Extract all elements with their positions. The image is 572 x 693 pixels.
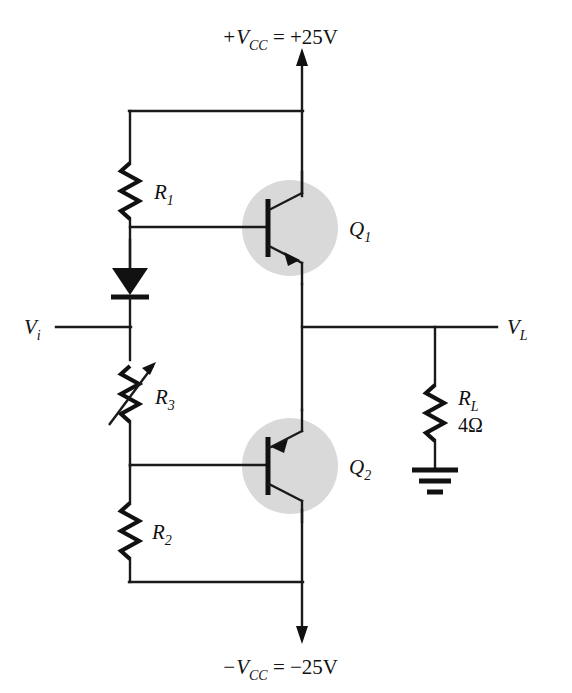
r3-adjust-arrowhead	[142, 362, 156, 375]
vcc-pos-rhs: = +25V	[268, 25, 338, 49]
r3-variable-resistor-symbol	[109, 362, 156, 466]
svg-text:VL: VL	[507, 315, 528, 343]
vcc-neg-sub: CC	[249, 668, 268, 683]
q1-label: Q1	[349, 217, 371, 245]
q2-label: Q2	[349, 455, 371, 483]
input-label: Vi	[24, 315, 41, 343]
negative-supply-label: −VCC = −25V	[222, 655, 338, 683]
load-branch	[426, 327, 444, 467]
rl-value-label: 4Ω	[458, 414, 483, 436]
q2-label-sub: 2	[364, 468, 371, 483]
ground-symbol	[412, 470, 458, 492]
svg-text:Q2: Q2	[349, 455, 371, 483]
r2-label-sub: 2	[165, 533, 172, 548]
q2-label-base: Q	[349, 455, 364, 479]
input-wire	[56, 327, 131, 328]
svg-text:R1: R1	[153, 180, 174, 208]
q1-label-base: Q	[349, 217, 364, 241]
positive-supply-arrowhead	[296, 48, 308, 66]
vi-label-sub: i	[37, 328, 41, 343]
r2-label: R2	[151, 520, 172, 548]
schematic-svg: +VCC = +25V −VCC = −25V R1 R3 R2	[0, 0, 572, 693]
rl-label: RL 4Ω	[457, 386, 483, 436]
svg-text:R2: R2	[151, 520, 172, 548]
vcc-pos-sign: +V	[222, 25, 251, 49]
vl-label-sub: L	[519, 328, 528, 343]
output-label: VL	[507, 315, 528, 343]
diode-symbol	[111, 240, 149, 360]
vcc-neg-sign: −V	[222, 655, 251, 679]
r1-label-sub: 1	[167, 193, 174, 208]
negative-supply-arrowhead	[296, 626, 308, 644]
svg-text:RL: RL	[457, 386, 479, 414]
svg-text:R3: R3	[154, 385, 175, 413]
vcc-neg-rhs: = −25V	[268, 655, 338, 679]
r3-label: R3	[154, 385, 175, 413]
q1-label-sub: 1	[364, 230, 371, 245]
svg-text:Vi: Vi	[24, 315, 41, 343]
svg-text:−VCC = −25V: −VCC = −25V	[222, 655, 338, 683]
r2-resistor-symbol	[121, 465, 139, 582]
positive-supply-rail	[129, 48, 308, 196]
rl-label-sub: L	[470, 399, 479, 414]
r1-label: R1	[153, 180, 174, 208]
positive-supply-label: +VCC = +25V	[222, 25, 338, 53]
vcc-pos-sub: CC	[249, 38, 268, 53]
circuit-diagram-page: +VCC = +25V −VCC = −25V R1 R3 R2	[0, 0, 572, 693]
r3-label-sub: 3	[167, 398, 175, 413]
r3-label-base: R	[154, 385, 168, 409]
r1-label-base: R	[153, 180, 167, 204]
svg-text:+VCC = +25V: +VCC = +25V	[222, 25, 338, 53]
rl-label-base: R	[457, 386, 471, 410]
diode-triangle	[112, 268, 148, 295]
r2-label-base: R	[151, 520, 165, 544]
svg-text:Q1: Q1	[349, 217, 371, 245]
